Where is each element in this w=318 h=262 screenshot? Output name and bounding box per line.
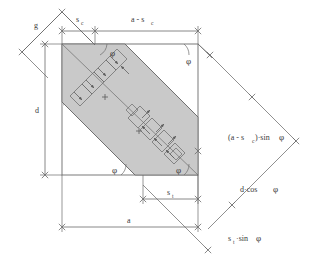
tool-width-dimension-chain: [140, 175, 201, 204]
label-cut-width: s: [76, 15, 79, 24]
label-remaining: a - s: [131, 15, 144, 24]
label-tool-width: s: [167, 188, 170, 197]
label-tool-projection-phi: φ: [256, 233, 261, 243]
label-diagonal-projection: d·cos: [240, 185, 257, 194]
top-dimension-chain: [59, 26, 201, 44]
label-gap: g: [34, 21, 38, 30]
label-diagonal-projection-phi: φ: [273, 184, 278, 194]
label-cut-width-sub: c: [81, 20, 84, 26]
label-phi-bottom-right: φ: [176, 165, 181, 175]
label-diagonal: d: [35, 106, 39, 115]
label-projected-remaining: (a - s: [228, 133, 244, 142]
diagram-canvas: g s c a - s c d a s t (a - s c )·sin φ d…: [0, 0, 318, 262]
lower-right-oblique-lines: [143, 175, 232, 250]
label-phi-top-right: φ: [186, 56, 191, 66]
label-tool-width-sub: t: [172, 193, 174, 199]
oblique-witness-lines: [198, 44, 212, 160]
label-projected-remaining-phi: φ: [279, 132, 284, 142]
label-phi-top-left: φ: [110, 48, 115, 58]
label-remaining-sub: c: [151, 20, 154, 26]
dimension-diagram: g s c a - s c d a s t (a - s c )·sin φ d…: [0, 0, 318, 262]
label-tool-projection: s: [228, 234, 231, 243]
oblique-dimension-ticks: [195, 52, 299, 253]
label-phi-bottom-left: φ: [112, 165, 117, 175]
label-projected-remaining-tail: )·sin: [255, 133, 270, 142]
label-side: a: [127, 216, 131, 225]
label-tool-projection-sub: t: [233, 239, 235, 245]
label-tool-projection-tail: ·sin: [236, 234, 248, 243]
left-dimension-chain: [40, 41, 62, 178]
